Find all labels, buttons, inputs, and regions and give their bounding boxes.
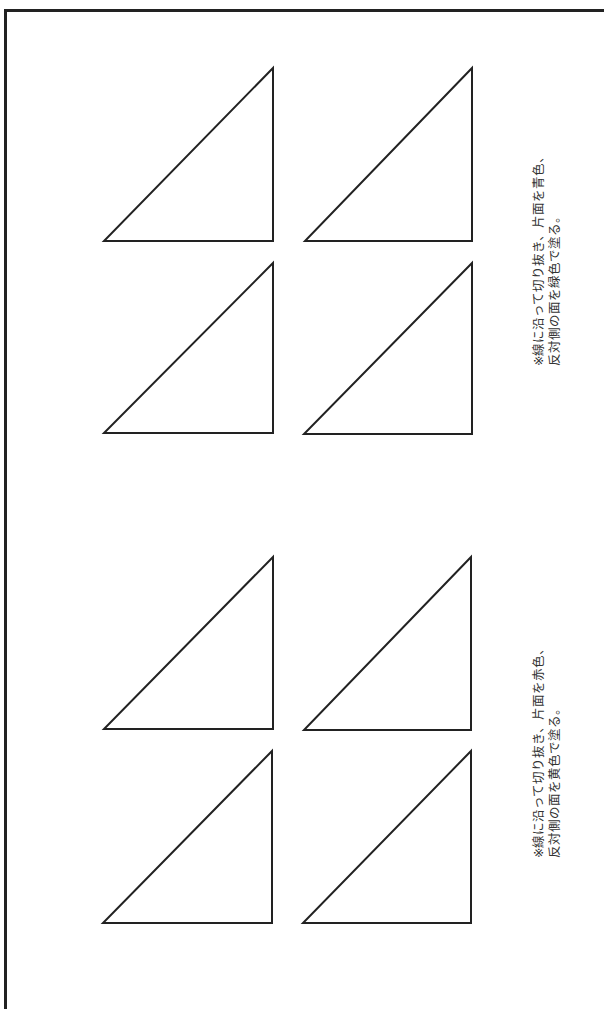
cutout-triangle <box>303 751 471 923</box>
upper-instruction-note: ※線に沿って切り抜き、片面を青色、 反対側の面を緑色で塗る。 <box>531 150 563 366</box>
cutout-triangle <box>103 751 272 923</box>
upper-note-line-2: 反対側の面を緑色で塗る。 <box>547 150 563 366</box>
cutout-triangle <box>304 557 471 730</box>
lower-instruction-note: ※線に沿って切り抜き、片面を赤色、 反対側の面を黄色で塗る。 <box>531 642 563 858</box>
triangle-layer <box>103 68 472 923</box>
cutout-triangle <box>104 557 273 729</box>
cutout-triangle <box>104 263 273 433</box>
lower-note-line-1: ※線に沿って切り抜き、片面を赤色、 <box>531 642 547 858</box>
cutout-triangle <box>305 68 472 241</box>
lower-note-line-2: 反対側の面を黄色で塗る。 <box>547 642 563 858</box>
upper-note-line-1: ※線に沿って切り抜き、片面を青色、 <box>531 150 547 366</box>
cutout-triangle <box>104 68 273 241</box>
cutout-triangle <box>304 263 472 434</box>
